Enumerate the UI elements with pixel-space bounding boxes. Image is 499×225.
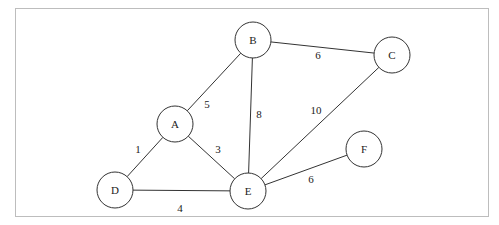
edge-b-e <box>249 58 253 173</box>
node-d: D <box>97 172 133 208</box>
node-label: B <box>249 34 256 46</box>
edge-weight-b-c: 6 <box>315 49 321 61</box>
node-c: C <box>374 37 410 73</box>
edge-weight-d-e: 4 <box>177 202 183 214</box>
edge-a-b <box>187 53 241 111</box>
edge-d-e <box>133 190 230 191</box>
edge-weight-c-e: 10 <box>311 104 323 116</box>
edge-e-f <box>265 155 347 185</box>
edge-a-d <box>127 137 163 176</box>
node-b: B <box>235 22 271 58</box>
node-label: E <box>245 185 252 197</box>
node-f: F <box>346 131 382 167</box>
node-e: E <box>230 173 266 209</box>
node-a: A <box>157 106 193 142</box>
edge-b-c <box>271 42 374 53</box>
edge-weight-e-f: 6 <box>308 173 314 185</box>
nodes-layer: ABCDEF <box>97 22 410 209</box>
edge-weight-a-b: 5 <box>204 98 210 110</box>
edge-weight-a-d: 1 <box>135 143 141 155</box>
edge-a-e <box>188 136 234 179</box>
edge-weight-b-e: 8 <box>256 108 262 120</box>
node-label: C <box>388 49 395 61</box>
node-label: D <box>111 184 119 196</box>
edge-weight-a-e: 3 <box>215 143 221 155</box>
graph-canvas: 568101346 ABCDEF <box>0 0 499 225</box>
node-label: A <box>171 118 179 130</box>
node-label: F <box>361 143 367 155</box>
